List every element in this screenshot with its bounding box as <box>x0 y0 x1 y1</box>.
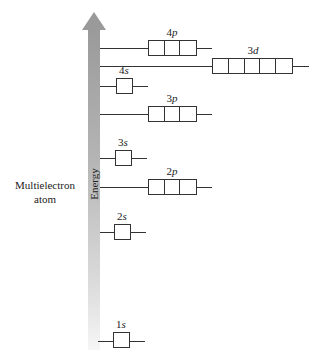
orbital-box <box>116 151 131 165</box>
orbital-label: 4s <box>104 64 144 76</box>
orbital-box <box>180 180 196 194</box>
orbital-boxes <box>116 78 133 94</box>
atom-label-line-2: atom <box>0 192 90 206</box>
level-line <box>130 341 145 342</box>
orbital-box <box>115 225 130 239</box>
orbital-label: 3p <box>152 92 192 104</box>
orbital-boxes <box>148 179 197 195</box>
level-line <box>293 66 309 67</box>
orbital-boxes <box>148 106 197 122</box>
orbital-box <box>117 79 132 93</box>
orbital-boxes <box>148 40 197 56</box>
level-line <box>98 341 113 342</box>
orbital-box <box>213 59 229 73</box>
level-line <box>100 86 116 87</box>
orbital-box <box>165 180 181 194</box>
orbital-label: 3s <box>103 136 143 148</box>
orbital-box <box>149 107 165 121</box>
orbital-box <box>149 41 165 55</box>
orbital-label: 1s <box>101 318 141 330</box>
orbital-label: 4p <box>152 26 192 38</box>
orbital-box <box>276 59 292 73</box>
atom-label-line-1: Multielectron <box>0 178 90 192</box>
orbital-box <box>149 180 165 194</box>
orbital-box <box>260 59 276 73</box>
orbital-box <box>165 41 181 55</box>
orbital-label: 2p <box>152 165 192 177</box>
orbital-boxes <box>113 332 130 348</box>
orbital-box <box>165 107 181 121</box>
level-line <box>197 48 212 49</box>
level-line <box>132 158 147 159</box>
orbital-box <box>180 107 196 121</box>
orbital-boxes <box>115 150 132 166</box>
orbital-box <box>180 41 196 55</box>
level-line <box>197 187 212 188</box>
level-line <box>197 114 212 115</box>
level-line <box>131 232 146 233</box>
orbital-boxes <box>212 58 293 74</box>
orbital-box <box>245 59 261 73</box>
level-line <box>100 158 115 159</box>
level-line <box>100 187 148 188</box>
orbital-box <box>114 333 129 347</box>
orbital-label: 2s <box>102 210 142 222</box>
energy-axis-label: Energy <box>88 168 100 200</box>
orbital-label: 3d <box>233 44 273 56</box>
level-line <box>133 86 148 87</box>
multielectron-atom-label: Multielectron atom <box>0 178 90 206</box>
level-line <box>100 48 148 49</box>
level-line <box>100 232 114 233</box>
level-line <box>100 114 148 115</box>
orbital-boxes <box>114 224 131 240</box>
orbital-box <box>229 59 245 73</box>
